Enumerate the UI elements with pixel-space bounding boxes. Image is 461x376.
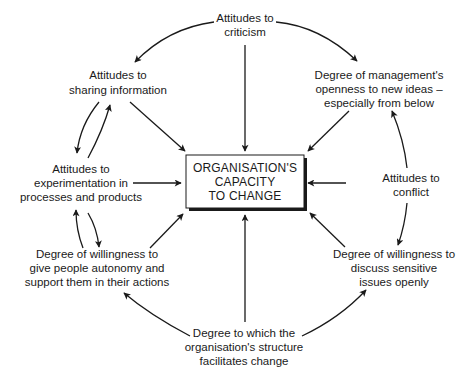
conflict-label-line-1: Attitudes to xyxy=(382,172,440,184)
management-label-line-1: Degree of management's xyxy=(315,69,444,81)
edge-structure-to-autonomy xyxy=(124,293,190,336)
management-label-line-3: especially from below xyxy=(324,97,435,109)
autonomy-label-line-3: support them in their actions xyxy=(25,276,170,288)
node-attitudes-to-conflict: Attitudes to conflict xyxy=(382,172,440,198)
criticism-label-line-1: Attitudes to xyxy=(216,12,274,24)
sharing-label-line-2: sharing information xyxy=(69,84,167,96)
node-structure-facilitates-change: Degree to which the organisation's struc… xyxy=(185,327,304,367)
sensitive-label-line-3: issues openly xyxy=(359,276,429,288)
node-willingness-autonomy: Degree of willingness to give people aut… xyxy=(25,248,170,288)
edge-sensitive-to-center xyxy=(310,213,345,247)
sensitive-label-line-1: Degree of willingness to xyxy=(333,248,455,260)
capacity-to-change-diagram: ORGANISATION'S CAPACITY TO CHANGE Attitu… xyxy=(0,0,461,376)
edge-conflict-to-sensitive xyxy=(398,203,407,245)
edge-criticism-to-management xyxy=(276,22,357,61)
edge-autonomy-to-experimentation xyxy=(76,210,83,248)
edge-management-to-center xyxy=(308,111,349,151)
structure-label-line-3: facilitates change xyxy=(200,355,289,367)
center-label-line-2: CAPACITY xyxy=(215,175,276,189)
structure-label-line-1: Degree to which the xyxy=(193,327,295,339)
autonomy-label-line-1: Degree of willingness to xyxy=(36,248,158,260)
sharing-label-line-1: Attitudes to xyxy=(89,69,147,81)
edge-sharing-to-center xyxy=(130,102,185,151)
edge-sharing-to-experimentation xyxy=(77,102,99,153)
center-label-line-3: TO CHANGE xyxy=(209,189,282,203)
node-management-openness: Degree of management's openness to new i… xyxy=(315,69,444,109)
edge-conflict-to-management xyxy=(392,111,407,168)
management-label-line-2: openness to new ideas – xyxy=(315,83,443,95)
edge-criticism-to-sharing xyxy=(135,22,214,62)
autonomy-label-line-2: give people autonomy and xyxy=(30,262,165,274)
center-node: ORGANISATION'S CAPACITY TO CHANGE xyxy=(186,155,307,211)
node-attitudes-to-sharing-information: Attitudes to sharing information xyxy=(69,69,167,96)
center-label-line-1: ORGANISATION'S xyxy=(193,161,297,175)
criticism-label-line-2: criticism xyxy=(224,26,266,38)
edge-experimentation-to-autonomy xyxy=(88,213,99,247)
node-attitudes-to-experimentation: Attitudes to experimentation in processe… xyxy=(20,163,142,203)
edge-structure-to-sensitive xyxy=(302,290,366,336)
conflict-label-line-2: conflict xyxy=(393,186,430,198)
experimentation-label-line-1: Attitudes to xyxy=(52,163,110,175)
edge-autonomy-to-center xyxy=(150,214,183,248)
structure-label-line-2: organisation's structure xyxy=(185,341,304,353)
node-willingness-sensitive-issues: Degree of willingness to discuss sensiti… xyxy=(333,248,455,288)
node-attitudes-to-criticism: Attitudes to criticism xyxy=(216,12,274,38)
experimentation-label-line-2: experimentation in xyxy=(34,177,128,189)
sensitive-label-line-2: discuss sensitive xyxy=(351,262,437,274)
experimentation-label-line-3: processes and products xyxy=(20,191,142,203)
